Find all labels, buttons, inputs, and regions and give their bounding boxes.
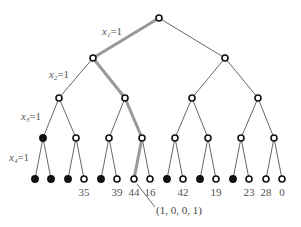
edge-label-x4: x4=1: [8, 151, 29, 165]
leaf-values: 35 39 44 16 42 19 23 28 0: [79, 186, 286, 198]
svg-text:19: 19: [211, 186, 223, 198]
tree-edges: [35, 18, 282, 179]
svg-text:39: 39: [112, 186, 124, 198]
svg-text:42: 42: [178, 186, 189, 198]
svg-text:23: 23: [244, 186, 256, 198]
svg-text:0: 0: [279, 186, 285, 198]
svg-text:28: 28: [261, 186, 273, 198]
root-node: [156, 15, 162, 21]
edge-label-x3: x3=1: [20, 110, 41, 124]
svg-text:16: 16: [145, 186, 157, 198]
tree-nodes: [32, 15, 285, 182]
svg-text:35: 35: [79, 186, 91, 198]
edge-label-x1: x1=1: [101, 25, 122, 39]
svg-text:44: 44: [129, 186, 141, 198]
edge-label-x2: x2=1: [48, 68, 69, 82]
decision-tree-diagram: x1=1 x2=1 x3=1 x4=1 35 39 44 16 42 19 23…: [0, 0, 301, 227]
path-annotation: (1, 0, 0, 1): [156, 204, 202, 217]
